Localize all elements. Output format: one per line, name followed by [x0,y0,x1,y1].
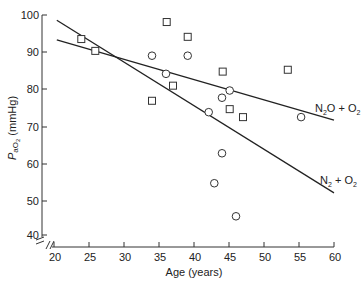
x-tick-label: 45 [224,251,236,263]
circle-marker [226,87,234,95]
regression-line [57,20,334,193]
square-marker [240,114,247,121]
y-tick-label: 40 [27,229,39,241]
circle-marker [218,94,226,102]
y-tick-label: 100 [21,9,39,21]
square-marker [78,36,85,43]
circle-marker [218,149,226,157]
x-tick-label: 60 [329,251,341,263]
series-labels: N2O + O2N2 + O2 [315,102,361,188]
square-marker [184,33,191,40]
circle-marker [232,213,240,221]
x-tick-label: 35 [154,251,166,263]
axes [36,15,334,249]
regression-lines [57,20,334,193]
x-tick-label: 50 [259,251,271,263]
x-tick-label: 40 [189,251,201,263]
x-axis-break-icon [46,241,54,249]
square-marker [163,19,170,26]
square-marker [92,47,99,54]
scatter-chart: 405060708090100202530354045505560 N2O + … [0,0,364,285]
series-label: N2O + O2 [315,102,361,116]
circle-marker [162,70,170,78]
square-marker [149,97,156,104]
circle-marker [211,179,219,187]
y-axis-label: PaO2 (mmHg) [6,96,21,160]
y-tick-label: 90 [27,46,39,58]
data-points [78,19,305,221]
y-tick-label: 50 [27,195,39,207]
x-tick-label: 20 [49,251,61,263]
y-tick-label: 80 [27,83,39,95]
square-marker [284,66,291,73]
x-tick-label: 25 [84,251,96,263]
circle-marker [148,52,156,60]
square-marker [170,82,177,89]
x-tick-label: 55 [294,251,306,263]
x-axis-label: Age (years) [166,266,223,278]
square-marker [219,68,226,75]
tick-labels: 405060708090100202530354045505560 [21,9,341,263]
y-tick-label: 60 [27,158,39,170]
series-label: N2 + O2 [320,174,357,188]
circle-marker [297,113,305,121]
circle-marker [205,108,213,116]
circle-marker [184,52,192,60]
square-marker [226,106,233,113]
y-tick-label: 70 [27,121,39,133]
x-tick-label: 30 [119,251,131,263]
